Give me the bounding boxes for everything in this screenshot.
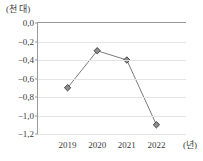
gridline [38,42,186,43]
x-axis-tick-label: 2021 [118,140,136,150]
gridline [38,134,186,135]
x-axis-tick-label: 2020 [88,140,106,150]
y-axis-tick-mark [35,60,38,61]
y-axis-tick-label: −1,2 [18,129,34,139]
x-axis-tick-label: 2019 [59,140,77,150]
gridline [38,97,186,98]
x-axis-tick-label: 2022 [147,140,165,150]
data-point-marker [153,122,159,128]
y-axis-tick-label: −0,6 [18,74,34,84]
y-axis-tick-mark [35,41,38,42]
y-axis-tick-label: −0,4 [18,55,34,65]
x-axis-unit-label: (년) [183,140,197,150]
gridline [38,60,186,61]
y-axis-tick-label: −0,8 [18,92,34,102]
gridline [38,116,186,117]
plot-area: 0,0−0,2−0,4−0,6−0,8−1,0−1,22019202020212… [37,22,186,134]
y-axis-tick-mark [35,97,38,98]
y-axis-tick-label: 0,0 [23,18,34,28]
gridline [38,79,186,80]
y-axis-tick-label: −1,0 [18,111,34,121]
y-axis-tick-mark [35,115,38,116]
y-axis-unit-label: (천 대) [6,4,30,15]
y-axis-tick-mark [35,23,38,24]
y-axis-tick-label: −0,2 [18,37,34,47]
y-axis-tick-mark [35,78,38,79]
y-axis-tick-mark [35,134,38,135]
line-chart: (천 대) 0,0−0,2−0,4−0,6−0,8−1,0−1,22019202… [0,0,203,161]
